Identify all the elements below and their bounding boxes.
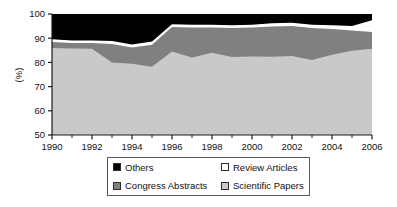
legend-swatch-scientific-papers [221, 182, 229, 190]
y-tick-label: 80 [34, 57, 45, 68]
y-tick-label: 50 [34, 129, 45, 140]
legend-item-others: Others [113, 163, 221, 173]
y-axis-tick-labels: 5060708090100 [29, 8, 45, 140]
legend-label-congress-abstracts: Congress Abstracts [125, 181, 207, 191]
x-axis-ticks [52, 135, 372, 140]
y-tick-label: 90 [34, 33, 45, 44]
y-axis-label: (%) [13, 68, 24, 83]
x-tick-label: 1996 [161, 141, 182, 152]
area-band-scientific-papers [52, 48, 372, 135]
x-tick-label: 2006 [361, 141, 382, 152]
y-tick-label: 100 [29, 8, 45, 19]
y-tick-label: 60 [34, 105, 45, 116]
x-tick-label: 2004 [321, 141, 342, 152]
legend-label-scientific-papers: Scientific Papers [233, 181, 304, 191]
legend-label-review-articles: Review Articles [233, 163, 297, 173]
chart-figure: 5060708090100 19901992199419961998200020… [0, 0, 397, 207]
x-tick-label: 2000 [241, 141, 262, 152]
chart-legend: Others Review Articles Congress Abstract… [107, 157, 310, 196]
y-tick-label: 70 [34, 81, 45, 92]
legend-swatch-others [113, 163, 121, 171]
legend-item-scientific-papers: Scientific Papers [221, 181, 316, 191]
x-axis-tick-labels: 199019921994199619982000200220042006 [41, 141, 382, 152]
x-tick-label: 2002 [281, 141, 302, 152]
legend-item-congress-abstracts: Congress Abstracts [113, 181, 221, 191]
x-tick-label: 1992 [81, 141, 102, 152]
x-tick-label: 1994 [121, 141, 142, 152]
x-tick-label: 1998 [201, 141, 222, 152]
legend-swatch-congress-abstracts [113, 182, 121, 190]
legend-swatch-review-articles [221, 163, 229, 171]
x-tick-label: 1990 [41, 141, 62, 152]
legend-label-others: Others [125, 163, 154, 173]
legend-item-review-articles: Review Articles [221, 163, 316, 173]
chart-series-areas [52, 14, 372, 135]
